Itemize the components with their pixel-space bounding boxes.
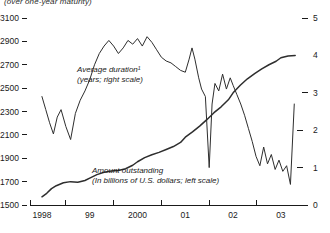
left-axis-labels: 150017001900210023002500270029003100	[0, 13, 19, 210]
amount-outstanding-label-line2: (In billions of U.S. dollars; left scale…	[92, 176, 219, 185]
left-axis-tick-label: 1700	[0, 177, 19, 187]
left-axis-ticks	[22, 18, 27, 205]
series-group	[42, 37, 295, 197]
right-axis-tick-label: 4	[313, 50, 318, 60]
right-axis-tick-label: 0	[313, 200, 318, 210]
right-axis-tick-label: 2	[313, 125, 318, 135]
left-axis-tick-label: 1900	[0, 153, 19, 163]
right-axis-ticks	[297, 18, 308, 168]
x-axis-tick-label: 99	[85, 210, 95, 220]
x-axis-tick-label: 2000	[128, 210, 147, 220]
chart-container: (over one-year maturity) 150017001900210…	[0, 0, 330, 233]
left-axis-tick-label: 2500	[0, 83, 19, 93]
left-axis-tick-label: 2700	[0, 60, 19, 70]
x-axis-tick-label: 03	[276, 210, 286, 220]
left-axis-tick-label: 2100	[0, 130, 19, 140]
average-duration-label-line2: (years; right scale)	[77, 75, 143, 84]
right-axis-tick-label: 1	[313, 163, 318, 173]
chart-plot-area: 150017001900210023002500270029003100 012…	[0, 0, 330, 233]
series-line-average-duration	[42, 37, 294, 185]
right-axis-tick-label: 3	[313, 88, 318, 98]
average-duration-label-line1: Average duration¹	[76, 65, 141, 74]
left-axis-tick-label: 3100	[0, 13, 19, 23]
amount-outstanding-label-line1: Amount outstanding	[91, 166, 164, 175]
x-axis-group: 1998992000010203	[30, 200, 308, 220]
annotation-group: Average duration¹(years; right scale)Amo…	[76, 65, 219, 185]
x-axis-tick-label: 02	[228, 210, 238, 220]
left-axis-tick-label: 2300	[0, 107, 19, 117]
x-axis-tick-label: 01	[181, 210, 191, 220]
left-axis-tick-label: 2900	[0, 36, 19, 46]
right-axis-labels: 012345	[313, 13, 318, 210]
right-axis-tick-label: 5	[313, 13, 318, 23]
x-axis-tick-label: 1998	[32, 210, 51, 220]
left-axis-tick-label: 1500	[0, 200, 19, 210]
